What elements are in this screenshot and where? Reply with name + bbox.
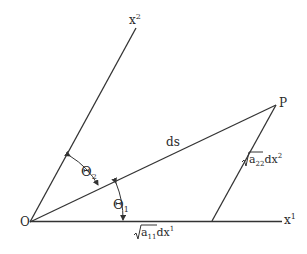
x2-axis-label: x2 xyxy=(129,12,141,27)
x2-axis xyxy=(30,28,136,222)
svg-text:a11dx1: a11dx1 xyxy=(141,225,174,241)
a11-dx1-label: a11dx1 xyxy=(134,225,174,241)
x1-axis-label: x1 xyxy=(284,212,296,227)
origin-label: O xyxy=(20,215,30,229)
a22-dx2-label: a22dx2 xyxy=(242,152,282,168)
ds-segment xyxy=(30,105,276,222)
theta1-label: Θ1 xyxy=(113,197,129,214)
metric-diagram: O P x1 x2 ds Θ2 Θ1 a22dx2 a11dx1 xyxy=(0,0,307,254)
theta2-label: Θ2 xyxy=(81,164,97,181)
point-p-label: P xyxy=(279,96,287,110)
svg-text:a22dx2: a22dx2 xyxy=(249,152,282,168)
ds-label: ds xyxy=(166,135,180,149)
